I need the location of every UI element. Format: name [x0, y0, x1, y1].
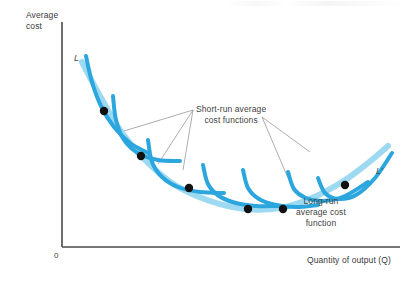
long-run-curve-start-label: L — [74, 53, 79, 64]
leader-line-2 — [158, 110, 193, 164]
long-run-curve-end-label: L' — [376, 166, 383, 177]
tangency-point-5 — [279, 205, 287, 213]
tangency-point-3 — [185, 184, 193, 192]
y-axis-label: Average cost — [26, 10, 58, 31]
short-run-curve-1 — [86, 56, 148, 153]
leader-line-3 — [183, 110, 193, 170]
tangency-point-2 — [137, 152, 145, 160]
origin-label: 0 — [54, 251, 59, 262]
x-axis-label: Quantity of output (Q) — [307, 255, 391, 266]
tangency-point-6 — [341, 181, 349, 189]
leader-line-1 — [124, 110, 193, 131]
short-run-curve-3 — [148, 140, 224, 193]
tangency-point-1 — [100, 107, 108, 115]
long-run-annotation: Long-run average cost function — [296, 196, 346, 229]
cost-curves-plot — [0, 0, 407, 290]
short-run-annotation: Short-run average cost functions — [196, 104, 266, 126]
tangency-point-4 — [244, 205, 252, 213]
figure-canvas: Average cost Quantity of output (Q) 0 L … — [0, 0, 407, 290]
